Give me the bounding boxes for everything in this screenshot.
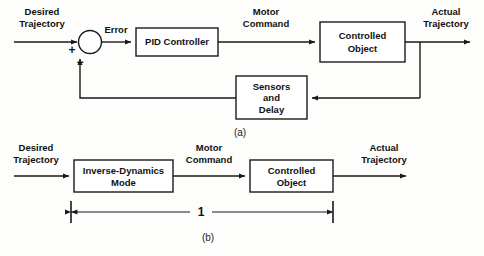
label-error: Error (104, 24, 128, 35)
label-actual-trajectory-b-line2: Trajectory (361, 154, 407, 165)
block-controlled-object-b-line1: Controlled (268, 165, 316, 176)
block-sensors-label-line2: and (263, 92, 280, 103)
label-motor-command-a-line2: Command (243, 18, 290, 29)
label-actual-trajectory-a-line1: Actual (431, 6, 460, 17)
block-inverse-dynamics-label-line2: Mode (111, 177, 136, 188)
caption-a: (a) (234, 127, 246, 138)
block-sensors-label-line1: Sensors (253, 81, 291, 92)
block-controlled-object-a-line2: Object (348, 43, 378, 54)
summing-junction (79, 31, 102, 54)
dimension-arrowhead-left (71, 209, 77, 214)
label-desired-trajectory-b-line1: Desired (19, 142, 54, 153)
label-motor-command-a-line1: Motor (253, 6, 280, 17)
label-motor-command-b-line2: Command (186, 154, 233, 165)
label-desired-trajectory-a-line1: Desired (25, 6, 60, 17)
block-diagram-figure: + − PID Controller Controlled Object Sen… (0, 0, 484, 256)
block-inverse-dynamics-label-line1: Inverse-Dynamics (83, 165, 164, 176)
block-controlled-object-a-line1: Controlled (339, 30, 387, 41)
wire-feedback-to-summing (80, 59, 236, 98)
diagram-canvas: + − PID Controller Controlled Object Sen… (0, 0, 484, 256)
label-actual-trajectory-a-line2: Trajectory (423, 18, 469, 29)
label-motor-command-b-line1: Motor (196, 142, 223, 153)
block-controlled-object-b-line2: Object (277, 177, 307, 188)
label-actual-trajectory-b-line1: Actual (369, 142, 398, 153)
block-sensors-label-line3: Delay (259, 104, 285, 115)
label-desired-trajectory-b-line2: Trajectory (13, 154, 59, 165)
label-desired-trajectory-a-line2: Trajectory (19, 18, 65, 29)
dimension-label-one: 1 (198, 205, 205, 219)
block-pid-controller-label: PID Controller (145, 36, 209, 47)
plus-sign: + (68, 43, 75, 57)
caption-b: (b) (202, 232, 214, 243)
